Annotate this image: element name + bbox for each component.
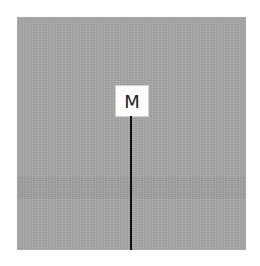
marker-label[interactable]: M xyxy=(115,85,149,117)
marker-line xyxy=(130,116,132,250)
marker-label-text: M xyxy=(124,91,140,112)
gray-panel: M xyxy=(17,17,246,250)
